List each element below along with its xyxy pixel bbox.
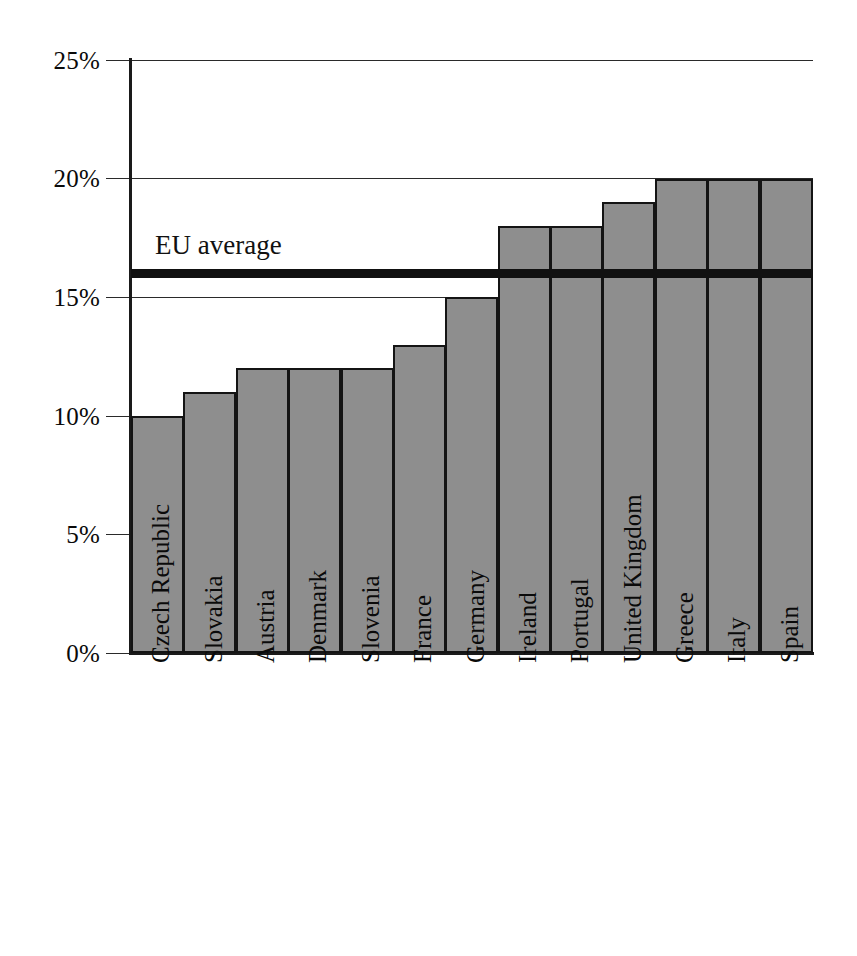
y-tick-label-15: 15%: [22, 285, 100, 310]
x-axis-label: Slovakia: [201, 576, 226, 664]
x-axis-label: France: [410, 595, 435, 663]
x-axis-label: Germany: [463, 570, 488, 663]
y-tick-mark-20: [106, 178, 130, 179]
y-tick-mark-25: [106, 60, 130, 61]
bar: [655, 179, 708, 653]
y-tick-mark-5: [106, 534, 130, 535]
y-tick-label-0: 0%: [22, 641, 100, 666]
x-axis-label: Austria: [253, 589, 278, 663]
bar: [760, 179, 813, 653]
x-axis-label: Czech Republic: [148, 504, 173, 663]
y-tick-mark-0: [106, 653, 130, 654]
y-tick-mark-10: [106, 416, 130, 417]
y-tick-mark-15: [106, 297, 130, 298]
y-tick-label-10: 10%: [22, 404, 100, 429]
y-tick-label-20: 20%: [22, 166, 100, 191]
eu-average-line: [131, 269, 813, 278]
bar: [498, 226, 551, 653]
y-tick-label-5: 5%: [22, 522, 100, 547]
bars-layer: [131, 60, 812, 653]
x-axis-label: Portugal: [567, 578, 592, 663]
x-axis-label: Ireland: [515, 592, 540, 663]
eu-average-label: EU average: [155, 232, 282, 259]
x-axis-label: Greece: [672, 592, 697, 663]
x-axis-label: Spain: [777, 606, 802, 663]
bar: [707, 179, 760, 653]
bar-chart: 25% 20% 15% 10% 5% 0% EU average Czech R…: [0, 0, 857, 956]
x-axis-label: Italy: [724, 617, 749, 663]
x-axis-label: United Kingdom: [620, 494, 645, 663]
x-axis-label: Denmark: [305, 570, 330, 663]
x-axis-label: Slovenia: [358, 576, 383, 664]
y-tick-label-25: 25%: [22, 48, 100, 73]
